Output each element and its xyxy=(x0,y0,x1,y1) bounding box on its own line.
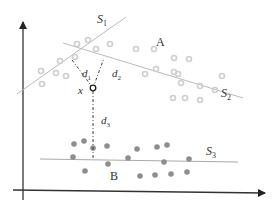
d2-line xyxy=(93,58,104,88)
line-s1 xyxy=(17,17,126,94)
cluster-b-points xyxy=(70,138,192,179)
label-cluster-b: B xyxy=(110,169,118,183)
label-x: x xyxy=(77,84,83,96)
label-cluster-a: A xyxy=(156,35,165,49)
label-d2: d2 xyxy=(112,67,122,82)
label-d1: d1 xyxy=(82,67,92,82)
x-axis xyxy=(13,190,265,193)
diagram-canvas: S1 S2 S3 A B x d1 d2 d3 xyxy=(0,0,277,207)
diagram-svg: S1 S2 S3 A B x d1 d2 d3 xyxy=(0,0,277,207)
label-d3: d3 xyxy=(101,114,111,129)
label-s1: S1 xyxy=(97,12,107,28)
label-s3: S3 xyxy=(206,144,216,160)
label-s2: S2 xyxy=(221,86,231,102)
point-x xyxy=(90,85,96,91)
line-s3 xyxy=(40,159,238,162)
cluster-a-points xyxy=(39,38,225,103)
